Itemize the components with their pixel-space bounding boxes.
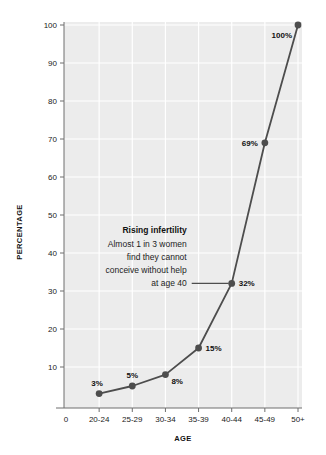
x-tick-label: 25-29 [122, 415, 143, 424]
data-point-label: 69% [242, 139, 258, 148]
data-point-label: 32% [239, 279, 255, 288]
x-tick-label: 40-44 [221, 415, 242, 424]
y-tick-label: 60 [48, 173, 57, 182]
x-tick-label: 0 [64, 415, 69, 424]
x-tick-label: 20-24 [89, 415, 110, 424]
data-point-marker [195, 345, 202, 352]
data-point-label: 100% [272, 31, 292, 40]
x-tick-label: 30-34 [155, 415, 176, 424]
annotation-line-1: Almost 1 in 3 women [108, 239, 187, 249]
data-point-label: 5% [127, 371, 139, 380]
x-tick-label: 45-49 [255, 415, 276, 424]
data-point-label: 8% [171, 377, 183, 386]
y-tick-label: 40 [48, 249, 57, 258]
data-point-marker [96, 390, 103, 397]
x-axis-title: AGE [174, 434, 191, 443]
data-point-marker [129, 383, 136, 390]
annotation-line-4: at age 40 [151, 278, 187, 288]
annotation-title: Rising infertility [122, 225, 187, 235]
y-axis-ticks: 102030405060708090100 [44, 21, 64, 372]
y-tick-label: 10 [48, 363, 57, 372]
y-tick-label: 50 [48, 211, 57, 220]
data-point-marker [162, 371, 169, 378]
annotation-line-2: find they cannot [127, 252, 188, 262]
y-tick-label: 100 [44, 21, 58, 30]
data-point-marker [228, 280, 235, 287]
y-axis-title: PERCENTAGE [15, 204, 24, 260]
y-tick-label: 30 [48, 287, 57, 296]
x-tick-label: 50+ [291, 415, 305, 424]
y-tick-label: 20 [48, 325, 57, 334]
annotation-line-3: conceive without help [105, 265, 187, 275]
data-point-label: 15% [206, 344, 222, 353]
infertility-by-age-chart: 102030405060708090100 020-2425-2930-3435… [0, 0, 326, 455]
chart-canvas: 102030405060708090100 020-2425-2930-3435… [0, 0, 326, 455]
data-point-marker [261, 139, 268, 146]
x-tick-label: 35-39 [188, 415, 209, 424]
data-point-label: 3% [91, 379, 103, 388]
y-tick-label: 90 [48, 59, 57, 68]
data-point-marker [295, 22, 302, 29]
x-axis-ticks: 020-2425-2930-3435-3940-4445-4950+ [64, 408, 305, 424]
y-tick-label: 70 [48, 135, 57, 144]
y-tick-label: 80 [48, 97, 57, 106]
